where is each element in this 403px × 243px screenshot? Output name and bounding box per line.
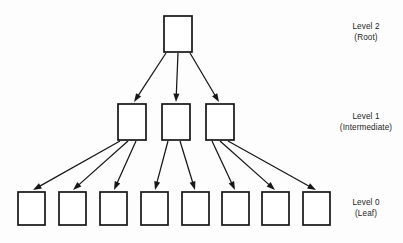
arrow-head-icon-leaf-1 — [33, 183, 42, 190]
edge-mid-1-to-leaf-2 — [78, 141, 128, 185]
level-label-leaf-title: Level 0 — [330, 198, 402, 209]
level-label-intermediate: Level 1 (Intermediate) — [330, 112, 402, 133]
edge-root-1-to-mid-1 — [138, 53, 166, 96]
nodes-layer — [18, 16, 330, 225]
level-label-intermediate-subtitle: (Intermediate) — [330, 123, 402, 134]
node-mid-1 — [118, 104, 146, 140]
edge-mid-3-to-leaf-8 — [228, 141, 310, 186]
edge-mid-3-to-leaf-7 — [220, 141, 270, 185]
level-label-root-title: Level 2 — [330, 22, 402, 33]
tree-diagram: Level 2 (Root) Level 1 (Intermediate) Le… — [0, 0, 403, 243]
arrow-head-icon-leaf-8 — [307, 183, 316, 190]
edge-mid-1-to-leaf-3 — [117, 141, 136, 183]
arrow-head-icon-leaf-6 — [229, 181, 235, 190]
edge-mid-1-to-leaf-1 — [39, 141, 120, 186]
edge-root-1-to-mid-2 — [176, 53, 178, 95]
node-leaf-1 — [18, 192, 45, 225]
node-leaf-7 — [262, 192, 289, 225]
arrow-head-icon-leaf-4 — [154, 181, 160, 190]
edge-mid-2-to-leaf-5 — [180, 141, 193, 183]
arrow-head-icon-mid-2 — [173, 93, 179, 102]
level-label-leaf: Level 0 (Leaf) — [330, 198, 402, 219]
arrow-head-icon-leaf-3 — [114, 181, 120, 190]
edge-mid-2-to-leaf-4 — [157, 141, 168, 183]
node-leaf-8 — [303, 192, 330, 225]
arrow-head-icon-leaf-5 — [190, 181, 196, 190]
node-leaf-6 — [222, 192, 249, 225]
node-leaf-4 — [141, 192, 168, 225]
node-mid-2 — [162, 104, 190, 140]
edge-mid-3-to-leaf-6 — [212, 141, 232, 183]
node-leaf-3 — [100, 192, 127, 225]
arrow-head-icon-mid-3 — [212, 93, 219, 102]
edge-root-1-to-mid-3 — [190, 53, 215, 96]
node-mid-3 — [206, 104, 234, 140]
arrow-head-icon-mid-1 — [134, 93, 141, 102]
level-label-intermediate-title: Level 1 — [330, 112, 402, 123]
level-label-leaf-subtitle: (Leaf) — [330, 209, 402, 220]
node-leaf-2 — [59, 192, 86, 225]
node-leaf-5 — [182, 192, 209, 225]
level-label-root: Level 2 (Root) — [330, 22, 402, 43]
node-root-1 — [164, 16, 192, 52]
level-label-root-subtitle: (Root) — [330, 33, 402, 44]
